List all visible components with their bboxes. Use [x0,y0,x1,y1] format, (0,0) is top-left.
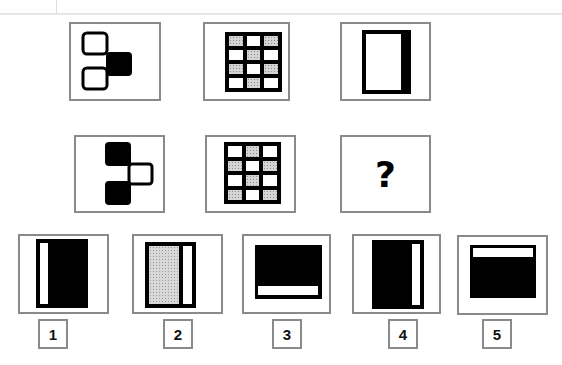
rectangle-figure [362,30,411,94]
option-5[interactable] [457,235,548,315]
option-2-figure [145,242,196,308]
toolbar-divider [56,0,57,13]
option-label-3[interactable]: 3 [272,319,302,349]
puzzle-cell-r1c3 [340,22,431,101]
question-mark: ? [342,137,429,211]
option-2[interactable] [132,234,223,314]
option-5-figure [470,245,536,298]
option-4[interactable] [352,234,441,314]
option-label-1[interactable]: 1 [38,319,68,349]
shaded-grid-figure [224,142,281,204]
squares-figure-icon [76,137,163,211]
option-label-4[interactable]: 4 [388,319,418,349]
option-1[interactable] [18,234,109,314]
puzzle-cell-r1c1 [69,22,161,101]
option-3[interactable] [242,234,331,314]
option-3-figure [255,245,322,299]
top-toolbar-strip [0,0,562,15]
option-4-figure [372,240,424,309]
puzzle-cell-r2c2 [205,135,296,213]
option-label-2[interactable]: 2 [163,319,193,349]
puzzle-cell-r2c1 [74,135,165,213]
puzzle-cell-r2c3: ? [340,135,431,213]
option-label-5[interactable]: 5 [482,319,512,349]
squares-figure-icon [71,24,159,99]
puzzle-cell-r1c2 [203,22,290,101]
option-1-figure [36,239,88,308]
shaded-grid-figure [225,32,282,92]
